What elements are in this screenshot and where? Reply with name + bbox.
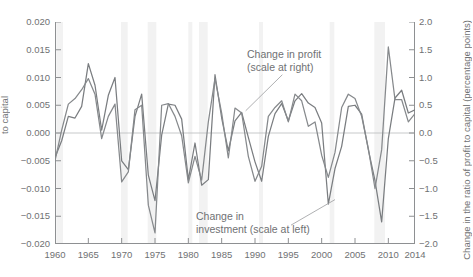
x-tick-label: 1960 xyxy=(40,249,70,260)
right-tick-label: −2.0 xyxy=(419,238,438,249)
right-tick-label: 1.5 xyxy=(419,44,432,55)
series-line xyxy=(55,47,415,233)
left-tick-label: −0.005 xyxy=(21,155,50,166)
x-tick-label: 1980 xyxy=(173,249,203,260)
left-tick-label: 0.010 xyxy=(26,72,50,83)
right-tick-label: −0.5 xyxy=(419,155,438,166)
annotation-investment: Change in investment (scale at left) xyxy=(196,210,310,236)
annotation-investment-line2: investment (scale at left) xyxy=(196,223,310,236)
series-line xyxy=(55,64,415,222)
left-tick-label: 0.005 xyxy=(26,99,50,110)
x-tick-label: 2005 xyxy=(340,249,370,260)
right-tick-label: 0.5 xyxy=(419,99,432,110)
left-tick-label: 0.020 xyxy=(26,16,50,27)
x-tick-label: 1990 xyxy=(240,249,270,260)
left-tick-label: 0.000 xyxy=(26,127,50,138)
annotation-profit-line2: (scale at right) xyxy=(247,61,321,74)
x-tick-label: 2010 xyxy=(373,249,403,260)
right-tick-label: −1.0 xyxy=(419,183,438,194)
right-tick-label: 2.0 xyxy=(419,16,432,27)
chart-root: to capital Change in the ratio of profit… xyxy=(0,0,473,277)
x-tick-label: 1975 xyxy=(140,249,170,260)
x-tick-label: 2000 xyxy=(307,249,337,260)
annotation-profit: Change in profit (scale at right) xyxy=(247,48,321,74)
left-tick-label: −0.015 xyxy=(21,210,50,221)
right-tick-label: 0.0 xyxy=(419,127,432,138)
left-tick-label: −0.010 xyxy=(21,183,50,194)
x-tick-label: 1970 xyxy=(107,249,137,260)
x-tick-label: 1985 xyxy=(207,249,237,260)
x-tick-label: 1995 xyxy=(273,249,303,260)
right-tick-label: 1.0 xyxy=(419,72,432,83)
annotation-investment-line1: Change in xyxy=(196,210,310,223)
annotation-profit-line1: Change in profit xyxy=(247,48,321,61)
x-tick-label: 1965 xyxy=(73,249,103,260)
left-axis-title: to capital xyxy=(0,96,10,134)
right-axis-title: Change in the ratio of profit to capital… xyxy=(461,20,472,260)
x-tick-label: 2014 xyxy=(400,249,430,260)
left-tick-label: −0.020 xyxy=(21,238,50,249)
right-tick-label: −1.5 xyxy=(419,210,438,221)
left-tick-label: 0.015 xyxy=(26,44,50,55)
